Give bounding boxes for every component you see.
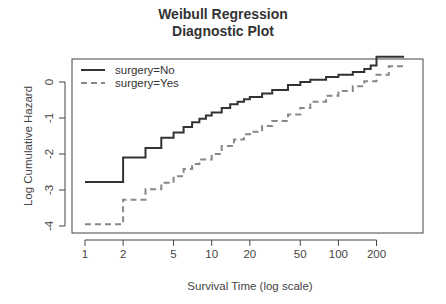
x-tick-label: 50: [294, 248, 307, 260]
legend-label-yes: surgery=Yes: [115, 77, 179, 89]
y-tick-label: -1: [43, 113, 55, 123]
y-axis: 0-1-2-3-4: [43, 79, 65, 231]
legend-label-no: surgery=No: [115, 64, 175, 76]
y-tick-label: 0: [43, 79, 55, 85]
x-tick-label: 20: [243, 248, 256, 260]
y-axis-label: Log Cumulative Hazard: [22, 86, 34, 206]
x-tick-label: 1: [82, 248, 88, 260]
x-tick-label: 5: [170, 248, 176, 260]
x-axis: 125102050100200: [82, 240, 386, 260]
x-tick-label: 100: [329, 248, 348, 260]
y-tick-label: -4: [43, 220, 55, 231]
x-tick-label: 2: [120, 248, 126, 260]
x-tick-label: 200: [367, 248, 386, 260]
x-tick-label: 10: [205, 248, 218, 260]
legend: surgery=No surgery=Yes: [81, 64, 179, 89]
y-tick-label: -2: [43, 149, 55, 159]
chart-canvas: 125102050100200 0-1-2-3-4 Survival Time …: [0, 0, 446, 304]
series-line-surgery-yes: [85, 66, 404, 224]
y-tick-label: -3: [43, 185, 55, 195]
x-axis-label: Survival Time (log scale): [187, 280, 312, 292]
